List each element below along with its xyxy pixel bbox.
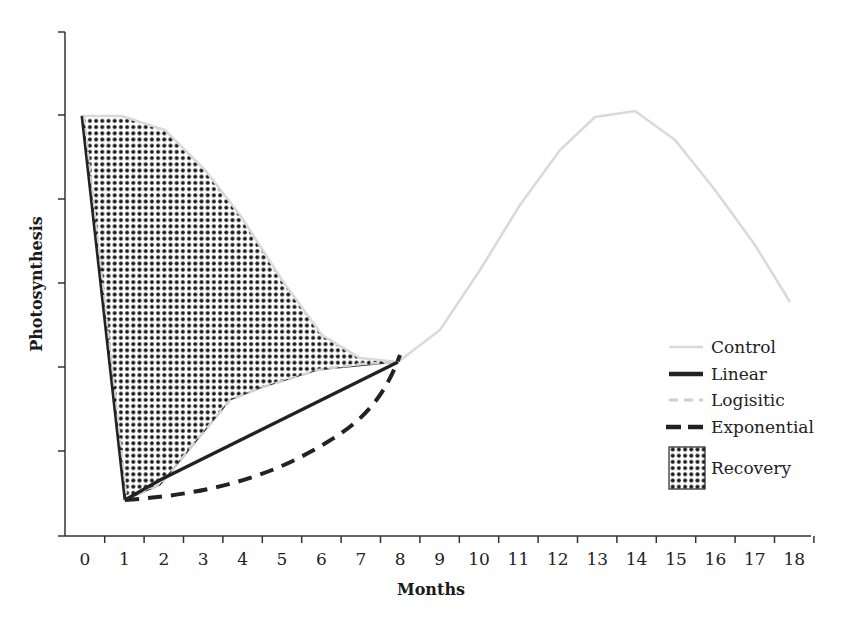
legend: Control Linear Logisitic Exponential Rec…	[666, 337, 814, 489]
y-ticks	[58, 32, 65, 451]
x-tick-label: 4	[237, 549, 248, 569]
x-tick-label: 8	[395, 549, 406, 569]
x-tick-label: 9	[434, 549, 445, 569]
y-axis-title: Photosynthesis	[27, 216, 46, 352]
legend-control-label: Control	[711, 337, 776, 357]
x-tick-label: 0	[80, 549, 91, 569]
x-tick-label: 17	[744, 549, 766, 569]
x-tick-label: 7	[355, 549, 366, 569]
chart-canvas: 0123456789101112131415161718 Months Phot…	[0, 0, 844, 618]
x-tick-label: 14	[626, 549, 648, 569]
x-tick-label: 18	[783, 549, 805, 569]
legend-recovery-label: Recovery	[711, 458, 791, 478]
x-tick-label: 2	[158, 549, 169, 569]
x-ticks	[105, 536, 814, 543]
x-tick-label: 5	[277, 549, 288, 569]
recovery-area	[82, 116, 398, 500]
legend-linear-label: Linear	[711, 364, 768, 384]
legend-recovery-swatch	[669, 447, 705, 489]
legend-exponential-label: Exponential	[711, 417, 814, 437]
x-tick-label: 10	[468, 549, 490, 569]
x-axis-title: Months	[397, 580, 465, 599]
x-tick-label: 15	[665, 549, 687, 569]
x-tick-label: 1	[119, 549, 130, 569]
x-tick-label: 12	[547, 549, 569, 569]
x-tick-labels: 0123456789101112131415161718	[80, 549, 805, 569]
x-tick-label: 3	[198, 549, 209, 569]
x-tick-label: 16	[705, 549, 727, 569]
x-tick-label: 6	[316, 549, 327, 569]
x-tick-label: 13	[586, 549, 608, 569]
legend-logistic-label: Logisitic	[711, 390, 785, 410]
x-tick-label: 11	[508, 549, 530, 569]
